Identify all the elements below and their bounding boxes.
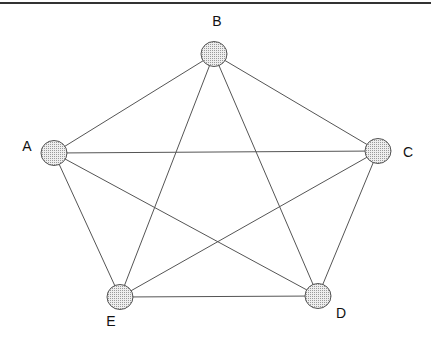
edge-a-e	[54, 153, 120, 297]
edge-a-b	[54, 54, 214, 153]
edge-a-c	[54, 151, 378, 153]
edge-b-e	[120, 54, 214, 297]
edge-d-e	[120, 296, 318, 297]
edge-c-e	[120, 151, 378, 297]
edges-group	[54, 54, 378, 297]
node-label-e: E	[106, 313, 115, 329]
node-label-b: B	[212, 13, 221, 29]
edge-b-c	[214, 54, 378, 151]
edge-b-d	[214, 54, 318, 296]
node-label-a: A	[22, 138, 31, 154]
edge-a-d	[54, 153, 318, 296]
node-label-d: D	[336, 305, 346, 321]
node-d[interactable]	[305, 284, 331, 309]
node-a[interactable]	[41, 141, 67, 166]
node-b[interactable]	[201, 42, 227, 67]
node-label-c: C	[403, 144, 413, 160]
graph-canvas	[0, 0, 431, 340]
nodes-group	[41, 42, 391, 310]
node-c[interactable]	[365, 139, 391, 164]
node-e[interactable]	[107, 285, 133, 310]
edge-c-d	[318, 151, 378, 296]
